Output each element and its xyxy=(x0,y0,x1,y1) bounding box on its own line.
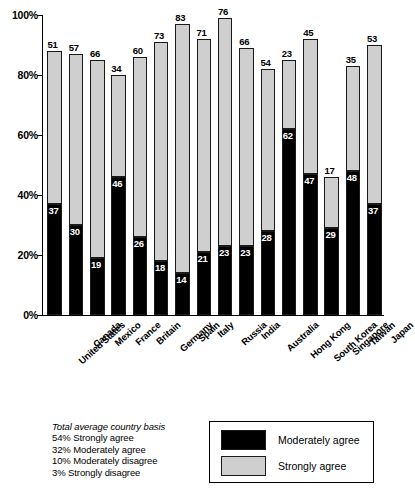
bar-value-moderately-agree: 26 xyxy=(134,239,144,249)
bar-segment-strongly-agree[interactable] xyxy=(154,42,169,261)
bar-value-strongly-agree: 76 xyxy=(218,7,228,17)
bar-group[interactable] xyxy=(154,42,169,315)
bar-value-moderately-agree: 47 xyxy=(304,176,314,186)
bar-value-strongly-agree: 54 xyxy=(261,58,271,68)
bar-segment-moderately-agree[interactable] xyxy=(47,204,62,315)
bar-group[interactable] xyxy=(111,75,126,315)
bar-segment-moderately-agree[interactable] xyxy=(367,204,382,315)
y-tick-label: 20% xyxy=(0,250,38,261)
bar-group[interactable] xyxy=(175,24,190,315)
bar-segment-strongly-agree[interactable] xyxy=(282,60,297,129)
bar-segment-strongly-agree[interactable] xyxy=(69,54,84,225)
bar-value-strongly-agree: 73 xyxy=(154,31,164,41)
bar-value-strongly-agree: 66 xyxy=(239,37,249,47)
bar-value-moderately-agree: 30 xyxy=(70,227,80,237)
bar-group[interactable] xyxy=(261,69,276,315)
bar-segment-moderately-agree[interactable] xyxy=(282,129,297,315)
footnote-title: Total average country basis xyxy=(52,421,165,432)
y-tick-label: 60% xyxy=(0,130,38,141)
bar-segment-strongly-agree[interactable] xyxy=(90,60,105,258)
bar-segment-strongly-agree[interactable] xyxy=(303,39,318,174)
legend-item[interactable]: Strongly agree xyxy=(221,456,366,476)
bar-group[interactable] xyxy=(367,45,382,315)
legend-label: Strongly agree xyxy=(278,460,346,472)
bar-segment-strongly-agree[interactable] xyxy=(239,48,254,246)
y-tick-label: 80% xyxy=(0,70,38,81)
bar-value-strongly-agree: 57 xyxy=(69,43,79,53)
bar-segment-strongly-agree[interactable] xyxy=(197,39,212,252)
y-tick-label: 100% xyxy=(0,10,38,21)
footnote-line: 54% Strongly agree xyxy=(52,432,165,443)
x-axis-baseline xyxy=(42,315,384,316)
bar-value-moderately-agree: 29 xyxy=(325,230,335,240)
bar-group[interactable] xyxy=(133,57,148,315)
bar-segment-strongly-agree[interactable] xyxy=(346,66,361,171)
footnote-line: 10% Moderately disagree xyxy=(52,455,165,466)
bar-segment-moderately-agree[interactable] xyxy=(346,171,361,315)
bar-value-strongly-agree: 45 xyxy=(303,28,313,38)
bar-segment-moderately-agree[interactable] xyxy=(261,231,276,315)
bar-value-strongly-agree: 71 xyxy=(197,28,207,38)
legend-label: Moderately agree xyxy=(278,434,360,446)
bar-segment-strongly-agree[interactable] xyxy=(367,45,382,204)
bar-value-strongly-agree: 60 xyxy=(133,46,143,56)
legend-swatch xyxy=(221,456,266,476)
bar-value-moderately-agree: 14 xyxy=(176,275,186,285)
bar-segment-strongly-agree[interactable] xyxy=(133,57,148,237)
bar-group[interactable] xyxy=(324,177,339,315)
bar-segment-moderately-agree[interactable] xyxy=(324,228,339,315)
bar-value-strongly-agree: 23 xyxy=(282,49,292,59)
bar-segment-strongly-agree[interactable] xyxy=(218,18,233,246)
bar-value-strongly-agree: 17 xyxy=(324,166,334,176)
bar-segment-strongly-agree[interactable] xyxy=(175,24,190,273)
bar-value-strongly-agree: 66 xyxy=(90,49,100,59)
bar-group[interactable] xyxy=(346,66,361,315)
bar-segment-moderately-agree[interactable] xyxy=(111,177,126,315)
y-tick-label: 40% xyxy=(0,190,38,201)
footnote: Total average country basis 54% Strongly… xyxy=(52,421,165,478)
bar-group[interactable] xyxy=(47,51,62,315)
y-tick-label: 0% xyxy=(0,310,38,321)
bar-value-moderately-agree: 37 xyxy=(48,206,58,216)
bar-segment-moderately-agree[interactable] xyxy=(69,225,84,315)
x-axis-label: Italy xyxy=(216,320,236,339)
bar-group[interactable] xyxy=(239,48,254,315)
bar-value-moderately-agree: 46 xyxy=(112,179,122,189)
bar-value-strongly-agree: 35 xyxy=(346,55,356,65)
legend-item[interactable]: Moderately agree xyxy=(221,430,366,450)
footnote-line: 32% Moderately agree xyxy=(52,444,165,455)
bar-value-strongly-agree: 83 xyxy=(175,13,185,23)
bar-value-moderately-agree: 19 xyxy=(91,260,101,270)
bar-value-moderately-agree: 37 xyxy=(368,206,378,216)
footnote-line: 3% Strongly disagree xyxy=(52,467,165,478)
bar-segment-strongly-agree[interactable] xyxy=(324,177,339,228)
bar-group[interactable] xyxy=(218,18,233,315)
bar-value-moderately-agree: 18 xyxy=(155,263,165,273)
bar-value-moderately-agree: 23 xyxy=(240,248,250,258)
bar-value-moderately-agree: 62 xyxy=(283,131,293,141)
bar-value-moderately-agree: 23 xyxy=(219,248,229,258)
bar-value-strongly-agree: 51 xyxy=(47,40,57,50)
legend: Moderately agreeStrongly agree xyxy=(209,421,374,483)
bar-segment-strongly-agree[interactable] xyxy=(261,69,276,231)
bar-group[interactable] xyxy=(69,54,84,315)
bar-segment-moderately-agree[interactable] xyxy=(303,174,318,315)
bar-segment-moderately-agree[interactable] xyxy=(133,237,148,315)
bar-group[interactable] xyxy=(197,39,212,315)
bar-segment-strongly-agree[interactable] xyxy=(111,75,126,177)
bar-value-moderately-agree: 48 xyxy=(347,173,357,183)
bar-value-strongly-agree: 34 xyxy=(111,64,121,74)
legend-swatch xyxy=(221,430,266,450)
bar-value-moderately-agree: 21 xyxy=(198,254,208,264)
bar-group[interactable] xyxy=(282,60,297,315)
bar-group[interactable] xyxy=(90,60,105,315)
bar-value-strongly-agree: 53 xyxy=(367,34,377,44)
bar-value-moderately-agree: 28 xyxy=(262,233,272,243)
bar-segment-strongly-agree[interactable] xyxy=(47,51,62,204)
